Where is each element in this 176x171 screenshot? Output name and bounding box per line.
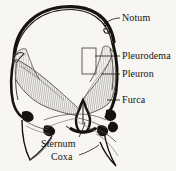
label-notum: Notum xyxy=(122,13,150,23)
label-furca: Furca xyxy=(122,95,145,105)
anatomical-figure: Notum Pleurodema Pleuron Furca Sternum C… xyxy=(0,0,176,171)
label-pleuron: Pleuron xyxy=(122,69,154,79)
thorax-cross-section-drawing xyxy=(0,0,176,171)
label-coxa: Coxa xyxy=(51,152,73,162)
label-pleurodema: Pleurodema xyxy=(122,51,171,61)
label-sternum: Sternum xyxy=(41,139,76,149)
